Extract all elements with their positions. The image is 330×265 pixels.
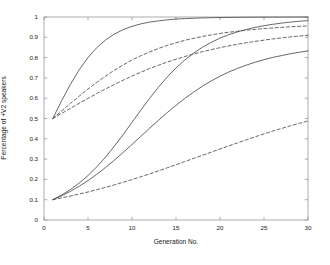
x-tick-label: 5: [86, 225, 89, 231]
y-tick-label: 0: [0, 217, 38, 223]
y-tick-label: 0.9: [0, 34, 38, 40]
series-line-start-0.5-dashed-slow: [53, 35, 308, 118]
x-tick-label: 30: [305, 225, 312, 231]
plot-frame: [44, 17, 308, 220]
series-line-start-0.1-solid-medium: [53, 51, 308, 200]
axis-ticks: [44, 17, 308, 220]
x-tick-label: 15: [173, 225, 180, 231]
x-tick-label: 10: [129, 225, 136, 231]
y-tick-label: 1: [0, 14, 38, 20]
axes-frame: [44, 17, 308, 220]
series-line-start-0.1-dashed-slow: [53, 121, 308, 200]
line-chart-plot: [0, 0, 330, 265]
series-line-start-0.5-solid-fast: [53, 17, 308, 118]
y-axis-label: Percentage of +V2 speakers: [0, 76, 7, 159]
y-tick-label: 0.8: [0, 54, 38, 60]
x-tick-label: 25: [261, 225, 268, 231]
data-series-group: [53, 17, 308, 200]
series-line-start-0.5-dashed-medium: [53, 26, 308, 119]
x-axis-label: Generation No.: [154, 238, 199, 245]
series-line-start-0.1-solid-fast: [53, 21, 308, 200]
x-tick-label: 0: [42, 225, 45, 231]
y-tick-label: 0.2: [0, 176, 38, 182]
x-tick-label: 20: [217, 225, 224, 231]
y-tick-label: 0.1: [0, 197, 38, 203]
figure-container: 00.10.20.30.40.50.60.70.80.91 0510152025…: [0, 0, 330, 265]
